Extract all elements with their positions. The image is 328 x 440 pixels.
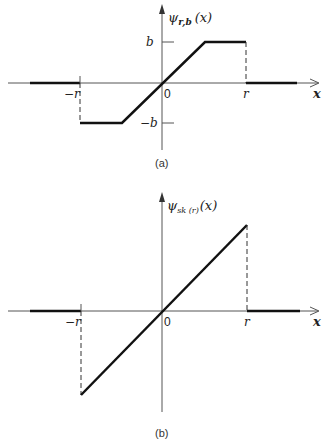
- label-neg-b: −b: [140, 116, 158, 130]
- label-origin-b: 0: [164, 315, 171, 329]
- y-label-a: ψr,b(x): [168, 10, 212, 28]
- caption-b: (b): [155, 427, 168, 439]
- label-r-b: r: [244, 315, 251, 329]
- x-label-a: x: [312, 86, 321, 101]
- label-b: b: [146, 35, 154, 49]
- curve-linear-b: [81, 225, 247, 395]
- y-axis-arrow-icon: [159, 4, 165, 14]
- x-label-b: x: [312, 314, 321, 329]
- label-r: r: [243, 87, 250, 101]
- caption-a: (a): [155, 157, 168, 169]
- panel-a: ψr,b(x) b −b −r r 0 x (a): [8, 4, 321, 169]
- label-neg-r: −r: [64, 87, 81, 101]
- y-label-b: ψsk (r)(x): [167, 198, 217, 215]
- label-neg-r-b: −r: [65, 315, 82, 329]
- figure-canvas: ψr,b(x) b −b −r r 0 x (a) ψsk (r)(x) −r …: [0, 0, 328, 440]
- label-origin-a: 0: [164, 87, 171, 101]
- panel-b: ψsk (r)(x) −r r 0 x (b): [8, 192, 321, 439]
- y-axis-arrow-icon: [159, 192, 165, 202]
